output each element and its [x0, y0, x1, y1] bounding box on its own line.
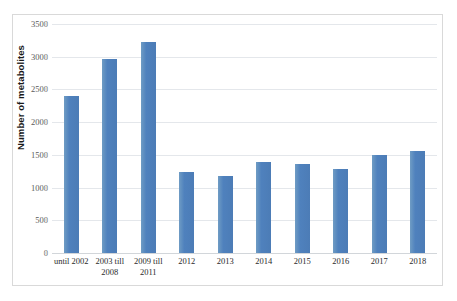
x-axis-category-label: 2003 till2008 [91, 256, 130, 277]
y-axis-tickmark [44, 253, 48, 254]
x-axis-label-line: 2009 till [129, 256, 168, 267]
x-axis-category-label: 2009 till2011 [129, 256, 168, 277]
x-axis-category-label: until 2002 [52, 256, 91, 267]
y-axis-tickmark [44, 89, 48, 90]
x-axis-category-label: 2016 [322, 256, 361, 267]
bar [218, 176, 233, 253]
y-axis-tick-label: 500 [6, 215, 48, 225]
bar [102, 59, 117, 253]
x-axis-label-line: 2003 till [91, 256, 130, 267]
bar [256, 162, 271, 253]
x-axis-label-line: 2014 [245, 256, 284, 267]
gridline [52, 253, 437, 254]
y-axis-tick-label: 3000 [6, 52, 48, 62]
bar [141, 42, 156, 253]
bar-chart: Number of metabolites 050010001500200025… [0, 0, 457, 301]
y-axis-tickmark [44, 220, 48, 221]
x-axis-category-label: 2015 [283, 256, 322, 267]
y-axis-tickmark [44, 24, 48, 25]
bar [295, 164, 310, 253]
x-axis-label-line: 2016 [322, 256, 361, 267]
x-axis-label-line: 2017 [360, 256, 399, 267]
x-axis-label-line: 2018 [399, 256, 438, 267]
x-axis-label-line: 2012 [168, 256, 207, 267]
y-axis-tickmark [44, 56, 48, 57]
x-axis-label-line: 2011 [129, 267, 168, 278]
y-axis-tickmark [44, 122, 48, 123]
bar [333, 169, 348, 253]
x-axis-label-line: 2015 [283, 256, 322, 267]
y-axis-tickmark [44, 187, 48, 188]
bar [64, 96, 79, 253]
x-axis-label-line: 2008 [91, 267, 130, 278]
x-axis-category-label: 2013 [206, 256, 245, 267]
x-axis-category-label: 2017 [360, 256, 399, 267]
y-axis-tick-label: 2500 [6, 84, 48, 94]
x-axis-labels: until 20022003 till20082009 till20112012… [52, 256, 437, 284]
bar [372, 155, 387, 253]
x-axis-category-label: 2018 [399, 256, 438, 267]
x-axis-category-label: 2012 [168, 256, 207, 267]
y-axis-tick-label: 1000 [6, 183, 48, 193]
bar-series [52, 24, 437, 253]
y-axis-tick-label: 1500 [6, 150, 48, 160]
bar [410, 151, 425, 253]
y-axis-tick-label: 2000 [6, 117, 48, 127]
x-axis-label-line: until 2002 [52, 256, 91, 267]
bar [179, 172, 194, 253]
y-axis-tick-label: 0 [6, 248, 48, 258]
x-axis-label-line: 2013 [206, 256, 245, 267]
x-axis-category-label: 2014 [245, 256, 284, 267]
y-axis-tick-label: 3500 [6, 19, 48, 29]
y-axis-tickmark [44, 154, 48, 155]
y-axis-ticks: 0500100015002000250030003500 [0, 24, 48, 253]
